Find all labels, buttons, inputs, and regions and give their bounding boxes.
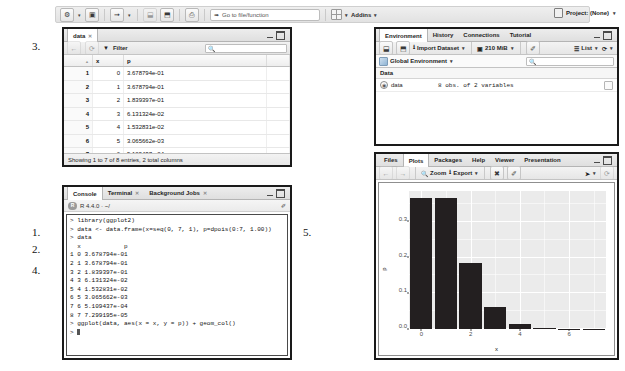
column-header-rownum[interactable]: ▲ xyxy=(64,55,93,67)
row-number: 5 xyxy=(64,121,93,135)
minimize-icon[interactable] xyxy=(594,37,600,38)
tab-background-jobs[interactable]: Background Jobs ✕ xyxy=(144,187,212,200)
bar xyxy=(410,198,432,329)
clear-all-plots-broom-icon[interactable]: ✐ xyxy=(507,166,521,180)
data-viewer-search-input[interactable]: 🔍 xyxy=(205,44,287,53)
minimize-icon[interactable] xyxy=(267,37,273,38)
load-workspace-icon[interactable]: ⬓ xyxy=(379,41,393,55)
tab-help[interactable]: Help xyxy=(467,154,490,167)
main-toolbar: ⚙ ▾ ▣ ➞ ▾ ⬓ ⬒ ⎙ ➠ Go to file/function ▾ … xyxy=(55,6,590,23)
row-number: 6 xyxy=(64,134,93,148)
environment-view-mode-button[interactable]: ☰ List ▾ xyxy=(574,45,599,52)
console-prompt: > xyxy=(70,329,77,336)
next-plot-arrow-icon[interactable]: → xyxy=(396,166,410,180)
print-icon[interactable]: ⎙ xyxy=(185,8,199,22)
row-number: 2 xyxy=(64,80,93,94)
console-interrupt-icon[interactable]: ✐ xyxy=(281,202,286,209)
table-row[interactable]: 3 2 1.839397e-01 xyxy=(64,94,290,108)
environment-object-row[interactable]: ◉ data 8 obs. of 2 variables xyxy=(376,79,617,92)
annotation-3: 3. xyxy=(32,40,40,52)
table-row[interactable]: 4 3 6.131324e-02 xyxy=(64,107,290,121)
save-workspace-icon[interactable]: ⬒ xyxy=(396,41,410,55)
maximize-icon[interactable] xyxy=(603,156,612,165)
tab-plots-label: Plots xyxy=(409,158,424,164)
table-row[interactable]: 2 1 3.678794e-01 xyxy=(64,80,290,94)
console-tabbar: Console Terminal ✕ Background Jobs ✕ xyxy=(64,187,290,200)
goto-file-function-input[interactable]: ➠ Go to file/function xyxy=(210,9,320,21)
annotation-4: 4. xyxy=(32,264,40,276)
tab-files[interactable]: Files xyxy=(379,154,403,167)
plots-window-controls xyxy=(594,156,614,165)
expand-icon[interactable]: ◉ xyxy=(380,81,388,89)
close-icon[interactable]: ✕ xyxy=(135,190,139,196)
filter-funnel-icon[interactable]: ▼ xyxy=(103,45,109,51)
memory-usage-button[interactable]: ▣ 210 MiB ▾ xyxy=(477,45,515,52)
plot-canvas[interactable]: p x 0.00.10.20.30246 xyxy=(378,182,615,356)
cell-x: 0 xyxy=(93,67,124,81)
cell-x: 5 xyxy=(93,134,124,148)
minimize-icon[interactable] xyxy=(594,162,600,163)
environment-object-name: data xyxy=(391,82,403,88)
export-button[interactable]: ⭳ Export ▾ xyxy=(449,168,479,178)
clear-workspace-broom-icon[interactable]: ✐ xyxy=(526,41,540,55)
addins-button[interactable]: ▾ Addins ▾ xyxy=(331,9,378,20)
filter-label[interactable]: Filter xyxy=(113,45,128,51)
previous-plot-arrow-icon[interactable]: ← xyxy=(379,166,393,180)
close-icon[interactable]: ✕ xyxy=(88,33,92,39)
remove-plot-icon[interactable]: ✖ xyxy=(490,166,504,180)
column-header-p[interactable]: p xyxy=(124,55,267,67)
back-arrow-icon[interactable]: ← xyxy=(67,41,81,55)
import-dataset-label: Import Dataset xyxy=(417,45,459,51)
open-file-icon[interactable]: ➞ xyxy=(110,8,124,22)
tab-viewer[interactable]: Viewer xyxy=(490,154,519,167)
console-context-bar: R R 4.4.0 · ~/ ✐ xyxy=(64,200,290,212)
row-number: 1 xyxy=(64,67,93,81)
plots-publish-button[interactable]: ➤ ▾ xyxy=(585,170,597,177)
annotation-2: 2. xyxy=(32,243,40,255)
plot-panel: 0.00.10.20.30246 xyxy=(409,191,606,329)
cell-p: 6.131324e-02 xyxy=(124,107,267,121)
row-number: 4 xyxy=(64,107,93,121)
tab-tutorial-label: Tutorial xyxy=(510,32,532,38)
table-row[interactable]: 1 0 3.678794e-01 xyxy=(64,67,290,81)
maximize-icon[interactable] xyxy=(603,31,612,40)
close-icon[interactable]: ✕ xyxy=(203,190,207,196)
tab-presentation[interactable]: Presentation xyxy=(519,154,565,167)
maximize-icon[interactable] xyxy=(276,31,285,40)
view-data-grid-icon[interactable] xyxy=(604,81,613,90)
global-environment-selector[interactable]: Global Environment ▾ xyxy=(379,57,454,66)
console-line: > data <- data.frame(x=seq(0, 7, 1), p=d… xyxy=(70,226,272,233)
tab-console[interactable]: Console xyxy=(67,187,103,200)
import-dataset-button[interactable]: ⭳ Import Dataset ▾ xyxy=(413,43,466,53)
tab-tutorial[interactable]: Tutorial xyxy=(505,29,537,42)
zoom-button[interactable]: 🔍 Zoom xyxy=(421,170,446,177)
table-row[interactable]: 6 5 3.065662e-03 xyxy=(64,134,290,148)
table-row[interactable]: 5 4 1.532831e-02 xyxy=(64,121,290,135)
x-axis-tick-label: 2 xyxy=(469,331,472,337)
tab-data-label: data xyxy=(73,33,85,39)
open-recent-chevron-down-icon[interactable]: ▾ xyxy=(127,12,132,18)
save-icon[interactable]: ⬓ xyxy=(143,8,157,22)
console-output[interactable]: > library(ggplot2) > data <- data.frame(… xyxy=(66,214,288,356)
x-axis-tick-label: 6 xyxy=(567,331,570,337)
maximize-icon[interactable] xyxy=(276,189,285,198)
project-selector[interactable]: Project: (None) ▾ xyxy=(554,6,617,20)
column-header-x[interactable]: x xyxy=(93,55,124,67)
save-all-icon[interactable]: ⬒ xyxy=(160,8,174,22)
environment-refresh-button[interactable]: ⟳ ▾ xyxy=(602,45,614,52)
r-logo-icon: R xyxy=(68,202,77,210)
new-file-chevron-down-icon[interactable]: ▾ xyxy=(77,12,82,18)
new-file-icon[interactable]: ⚙ xyxy=(60,8,74,22)
new-project-icon[interactable]: ▣ xyxy=(85,8,99,22)
column-header-p-label: p xyxy=(127,58,131,64)
refresh-icon[interactable]: ⟳ xyxy=(85,41,99,55)
tab-packages[interactable]: Packages xyxy=(429,154,467,167)
plots-refresh-icon[interactable]: ⟳ xyxy=(600,166,614,180)
chevron-down-icon: ▾ xyxy=(474,170,479,176)
x-axis-tick-mark xyxy=(569,329,570,331)
tab-terminal[interactable]: Terminal ✕ xyxy=(103,187,145,200)
tab-history[interactable]: History xyxy=(428,29,459,42)
minimize-icon[interactable] xyxy=(267,195,273,196)
tab-connections[interactable]: Connections xyxy=(458,29,504,42)
environment-search-input[interactable]: 🔍 xyxy=(526,57,614,66)
